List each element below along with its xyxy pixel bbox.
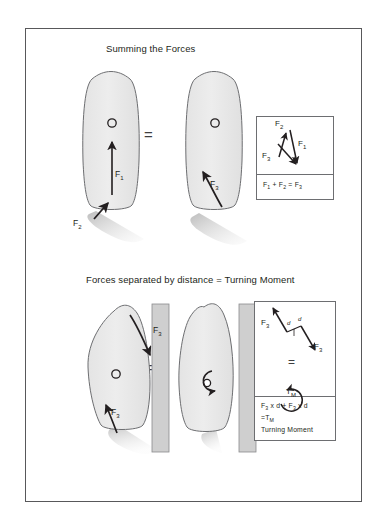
inset-equation-moment-line2: =TM — [261, 414, 274, 423]
wake-bottom-right — [201, 429, 222, 453]
inset-label-f3-left: F3 — [261, 318, 269, 329]
inset-equation-moment-line1: F3 x d + F3 x d — [261, 402, 308, 411]
inset-distance-label-1: d — [287, 320, 290, 326]
boat-label-f3-stern: F3 — [111, 407, 120, 419]
inset-equation-moment-line3: Turning Moment — [261, 426, 313, 433]
hull-bottom-right — [179, 304, 233, 432]
inset-vector-f2 — [279, 133, 286, 157]
inset-box-force-summation: F2 F1 F3 F1 + F2 = F3 — [256, 116, 334, 200]
wake-top-right — [190, 213, 247, 245]
boat-label-f3-bow: F3 — [153, 325, 162, 337]
hull-top-left — [83, 72, 139, 210]
inset-label-f1: F1 — [298, 139, 306, 150]
inset-distance-label-2: d — [298, 316, 301, 322]
inset-couple-vector-f3-right — [301, 326, 315, 350]
inset-turning-moment-symbol: TM — [286, 387, 296, 398]
inset-equals-sign: = — [288, 355, 295, 369]
boat-label-f1: F1 — [115, 169, 124, 181]
inset-label-f3: F3 — [262, 151, 270, 162]
boat-label-f3-top: F3 — [210, 179, 219, 191]
inset-equation-force-sum: F1 + F2 = F3 — [263, 181, 302, 190]
boat-label-f2: F2 — [73, 218, 82, 230]
boat-bottom-right — [179, 304, 256, 453]
inset-box-turning-moment: F3 F3 d d = TM F3 x d + F3 x d =TM Turni… — [254, 301, 336, 441]
diagram-frame: Summing the Forces Forces separated by d… — [25, 28, 362, 502]
inset-couple-vector-f3-left — [273, 308, 287, 332]
inset-label-f3-right: F3 — [314, 342, 322, 353]
boat-top-right — [186, 72, 247, 245]
inset-label-f2: F2 — [275, 119, 283, 130]
boat-top-left — [83, 72, 144, 243]
